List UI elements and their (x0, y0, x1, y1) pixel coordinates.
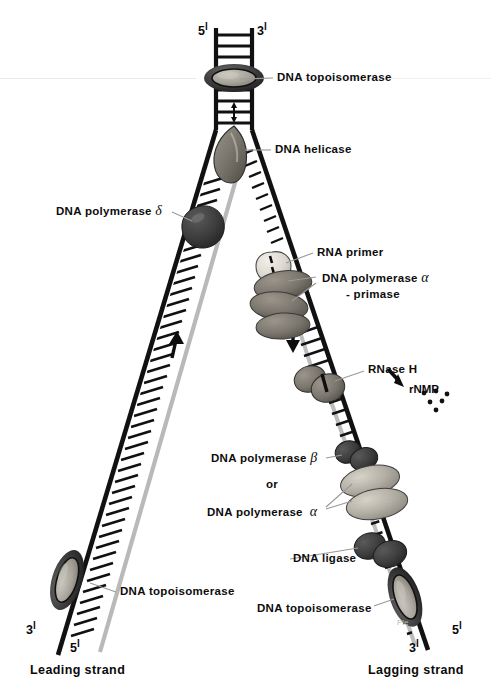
label-dna-topoisomerase-bottom-left: DNA topoisomerase (120, 584, 235, 598)
dna-polymerase-alpha-protein (338, 460, 411, 524)
topoisomerase-bottom-left (44, 546, 91, 614)
label-dna-ligase: DNA ligase (293, 551, 356, 565)
leading-new-strand (100, 176, 237, 652)
greek-alpha: α (421, 270, 429, 285)
greek-beta: β (310, 450, 317, 465)
dna-polymerase-alpha-primase-protein (249, 267, 314, 341)
okazaki-fragment-1 (300, 332, 311, 366)
label-leading-strand: Leading strand (30, 663, 125, 677)
label-dna-helicase: DNA helicase (275, 142, 352, 156)
label-dna-topoisomerase-bottom-right: DNA topoisomerase (257, 601, 372, 615)
label-rnmp: rNMP (409, 383, 439, 395)
greek-delta: δ (155, 203, 162, 218)
leader-topoisomerase-bottom-right (374, 599, 394, 606)
greek-alpha-2: α (310, 504, 318, 519)
dna-replication-diagram: 5l 3l 3l 5l 3l 5l DNA topoisomerase DNA … (0, 0, 491, 698)
label-dna-polymerase-alpha-primase: DNA polymerase α- primase (322, 269, 429, 301)
end-label-bottom-right-5prime: 5l (452, 623, 462, 637)
diagram-canvas (0, 0, 491, 698)
label-rna-primer: RNA primer (317, 245, 383, 259)
label-dna-polymerase-delta: DNA polymerase δ (56, 202, 162, 220)
label-lagging-strand: Lagging strand (368, 663, 464, 677)
label-rnase-h: RNase H (368, 362, 417, 376)
label-primase-suffix: - primase (346, 287, 429, 301)
label-dna-polymerase-alpha: DNA polymerase α (207, 503, 317, 521)
leader-rna-primer (286, 253, 313, 263)
end-label-top-right-3prime: 3l (257, 24, 267, 38)
end-label-top-left-5prime: 5l (198, 24, 208, 38)
dna-helicase-protein (214, 126, 247, 183)
dna-polymerase-delta-protein (182, 206, 224, 248)
end-label-bottom-left-5prime: 5l (70, 641, 80, 655)
label-dna-polymerase-beta: DNA polymerase β (211, 449, 318, 467)
end-label-bottom-left-3prime: 3l (26, 623, 36, 637)
label-dna-topoisomerase-top: DNA topoisomerase (277, 70, 392, 84)
scan-watermark-text: Ple (397, 618, 409, 627)
end-label-bottom-right-3prime: 3l (409, 641, 419, 655)
label-or-connector: or (266, 477, 278, 491)
